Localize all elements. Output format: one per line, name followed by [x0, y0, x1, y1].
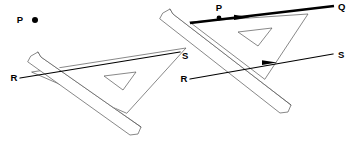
- left-label-P: P: [17, 14, 24, 25]
- left-label-R: R: [11, 72, 18, 83]
- stage-1-left-group: P R S: [11, 14, 189, 135]
- left-point-P-dot: [32, 17, 38, 23]
- right-label-P: P: [216, 2, 223, 13]
- right-label-S: S: [338, 49, 344, 60]
- geometry-figure: P R S P Q R S: [0, 0, 352, 141]
- right-point-P-dot: [217, 16, 222, 21]
- construction-diagram: P R S P Q R S: [0, 0, 352, 141]
- left-label-S: S: [182, 50, 188, 61]
- right-label-Q: Q: [338, 1, 345, 12]
- right-label-R: R: [181, 73, 188, 84]
